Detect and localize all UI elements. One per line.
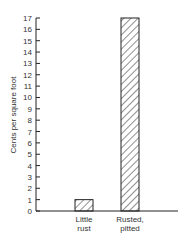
- y-tick-label: 2: [28, 184, 33, 193]
- y-tick-label: 17: [23, 14, 32, 23]
- y-tick-label: 15: [23, 37, 32, 46]
- bar: [75, 200, 93, 211]
- y-tick-label: 3: [28, 173, 33, 182]
- category-label: Rusted,: [116, 215, 144, 224]
- y-tick-label: 4: [28, 162, 33, 171]
- y-tick-label: 5: [28, 150, 33, 159]
- category-label: pitted: [120, 224, 140, 233]
- category-label: rust: [77, 224, 91, 233]
- y-tick-label: 12: [23, 71, 32, 80]
- y-tick-label: 7: [28, 128, 33, 137]
- y-tick-label: 9: [28, 105, 33, 114]
- y-tick-label: 13: [23, 59, 32, 68]
- category-label: Little: [76, 215, 93, 224]
- y-tick-label: 10: [23, 93, 32, 102]
- y-tick-label: 1: [28, 196, 33, 205]
- y-tick-label: 8: [28, 116, 33, 125]
- y-tick-label: 0: [28, 207, 33, 216]
- y-tick-label: 6: [28, 139, 33, 148]
- y-axis-label: Cents per square foot: [9, 76, 18, 154]
- bar-chart: Cents per square foot 012345678910111213…: [0, 0, 187, 243]
- bar: [121, 18, 139, 211]
- x-axis-categories: LittlerustRusted,pitted: [76, 215, 144, 233]
- y-tick-label: 16: [23, 25, 32, 34]
- y-tick-label: 11: [24, 82, 33, 91]
- y-axis-ticks: 01234567891011121314151617: [23, 14, 40, 216]
- bars: [75, 18, 139, 211]
- y-tick-label: 14: [23, 48, 32, 57]
